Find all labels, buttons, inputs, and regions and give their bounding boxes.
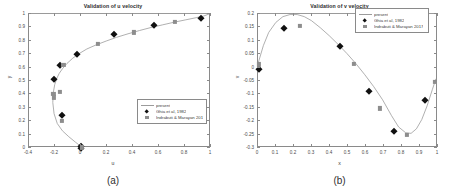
legend-label: present — [156, 103, 170, 108]
x-tick-label: 0.9 — [416, 150, 422, 155]
y-tick — [207, 147, 210, 148]
chart-title-a: Validation of u velocity — [0, 3, 226, 9]
panel-label-b: (b) — [226, 175, 453, 186]
y-tick — [207, 26, 210, 27]
y-tick — [207, 40, 210, 41]
y-tick — [434, 40, 437, 41]
data-point-indrabuti — [377, 106, 381, 110]
y-tick-label: 0 — [8, 145, 25, 150]
square-marker-icon — [358, 25, 372, 28]
data-point-indrabuti — [173, 20, 177, 24]
x-tick — [80, 144, 81, 147]
x-tick — [275, 13, 276, 16]
data-point-indrabuti — [59, 119, 63, 123]
x-tick — [132, 13, 133, 16]
y-tick — [257, 53, 260, 54]
data-point-indrabuti — [96, 42, 100, 46]
y-tick-label: 0.05 — [237, 51, 254, 56]
x-tick — [383, 144, 384, 147]
x-tick — [210, 144, 211, 147]
x-tick — [132, 144, 133, 147]
y-tick — [28, 80, 31, 81]
legend-label: present — [374, 12, 388, 17]
plot-area-b — [257, 13, 437, 147]
x-tick — [184, 144, 185, 147]
x-tick-label: 0.4 — [326, 150, 332, 155]
diamond-marker-icon — [140, 110, 154, 113]
legend-item-indrabuti-a: Indrabuti & Marayan 2017 — [140, 114, 203, 120]
y-tick — [257, 40, 260, 41]
y-tick — [28, 53, 31, 54]
x-tick — [184, 13, 185, 16]
x-axis-title-a: u — [0, 160, 226, 166]
y-tick — [28, 93, 31, 94]
y-tick — [28, 26, 31, 27]
x-tick — [437, 144, 438, 147]
y-tick — [257, 80, 260, 81]
legend-a: present Ghia et al, 1982 Indrabuti & Mar… — [137, 99, 207, 124]
x-tick — [293, 13, 294, 16]
legend-b: present Ghia et al, 1982 Indrabuti & Mar… — [355, 8, 429, 33]
y-tick — [434, 53, 437, 54]
x-tick — [401, 144, 402, 147]
x-tick-label: 0.4 — [129, 150, 135, 155]
figure-container: Validation of u velocity -0.4-0.200.20.4… — [0, 0, 453, 188]
x-tick — [347, 144, 348, 147]
y-tick — [434, 93, 437, 94]
x-tick-label: 0.1 — [272, 150, 278, 155]
x-tick — [311, 13, 312, 16]
x-tick — [419, 144, 420, 147]
y-tick-label: 0.2 — [8, 118, 25, 123]
y-tick — [207, 53, 210, 54]
y-tick-label: 0.2 — [237, 11, 254, 16]
y-tick — [28, 13, 31, 14]
y-tick-label: -0.25 — [237, 131, 254, 136]
y-tick — [257, 13, 260, 14]
x-tick — [293, 144, 294, 147]
data-point-indrabuti — [61, 63, 65, 67]
x-axis-title-b: x — [226, 160, 453, 166]
y-tick-label: 0.7 — [8, 51, 25, 56]
x-tick — [158, 144, 159, 147]
x-tick — [106, 13, 107, 16]
y-tick — [257, 26, 260, 27]
panel-label-a: (a) — [0, 175, 226, 186]
y-tick — [257, 93, 260, 94]
y-tick-label: -0.2 — [237, 118, 254, 123]
x-tick-label: 0.6 — [155, 150, 161, 155]
x-tick-label: -0.4 — [24, 150, 32, 155]
legend-line-icon — [358, 14, 372, 15]
x-tick-label: 0.8 — [398, 150, 404, 155]
y-tick-label: 0.15 — [237, 24, 254, 29]
legend-label: Ghia et al, 1982 — [374, 18, 404, 23]
y-tick — [257, 120, 260, 121]
y-tick — [28, 40, 31, 41]
square-marker-icon — [140, 116, 154, 119]
plot-area-a — [28, 13, 210, 147]
legend-item-indrabuti-b: Indrabuti & Marayan 2017 — [358, 23, 425, 29]
y-tick — [28, 67, 31, 68]
y-tick-label: 0.4 — [8, 91, 25, 96]
y-tick — [257, 147, 260, 148]
x-tick — [365, 144, 366, 147]
x-tick-label: 0.5 — [344, 150, 350, 155]
y-tick — [207, 80, 210, 81]
x-tick — [329, 13, 330, 16]
panel-a: Validation of u velocity -0.4-0.200.20.4… — [0, 0, 226, 188]
y-tick — [207, 107, 210, 108]
x-tick-label: 0.3 — [308, 150, 314, 155]
x-tick-label: 0.7 — [380, 150, 386, 155]
y-axis-title-b: v — [234, 70, 240, 84]
y-tick — [207, 134, 210, 135]
x-tick-label: 1 — [209, 150, 212, 155]
y-tick-label: 0.3 — [8, 104, 25, 109]
x-tick — [106, 144, 107, 147]
x-tick-label: -0.2 — [50, 150, 58, 155]
x-tick — [329, 144, 330, 147]
y-tick-label: 0.1 — [237, 37, 254, 42]
x-tick — [311, 144, 312, 147]
data-point-indrabuti — [51, 92, 55, 96]
data-point-indrabuti — [298, 24, 302, 28]
y-tick — [434, 67, 437, 68]
x-tick — [54, 144, 55, 147]
